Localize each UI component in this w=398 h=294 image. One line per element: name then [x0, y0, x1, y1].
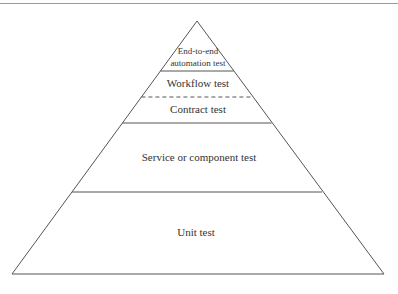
- layer-unit-label: Unit test: [177, 226, 215, 238]
- layer-service-label: Service or component test: [142, 151, 257, 163]
- layer-workflow-label: Workflow test: [167, 77, 229, 89]
- layer-e2e-label-line2: automation test: [170, 57, 225, 69]
- layer-contract-label: Contract test: [170, 103, 226, 115]
- layer-e2e-label-line1: End-to-end: [170, 45, 225, 57]
- layer-e2e-label: End-to-end automation test: [170, 45, 225, 69]
